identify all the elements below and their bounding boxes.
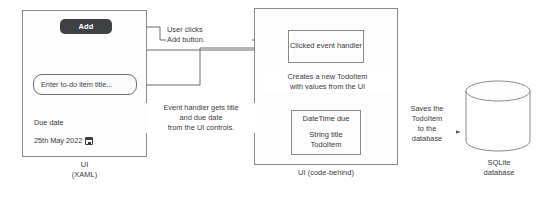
panel-caption-xaml: UI (XAML)	[22, 160, 147, 180]
due-date-label: Due date	[34, 118, 64, 127]
panel-caption-database: SQLite database	[456, 158, 542, 178]
sqlite-database-cylinder-icon	[462, 78, 534, 154]
todoitem-field-due: DateTime due	[303, 114, 350, 125]
diagram-canvas: Add Enter to-do item title... Due date 2…	[0, 0, 549, 200]
due-date-picker[interactable]: 25th May 2022	[34, 136, 93, 145]
add-button[interactable]: Add	[60, 19, 112, 34]
edge-label-creates-new-todoitem: Creates a new TodoItem with values from …	[264, 72, 391, 92]
todoitem-field-title: String title	[309, 130, 342, 141]
edge-label-user-clicks: User clicks Add button.	[166, 25, 252, 45]
edge-label-saves-to-database: Saves the TodoItem to the database	[398, 104, 456, 144]
todoitem-class-box: DateTime due String title TodoItem	[291, 110, 361, 155]
todo-title-input[interactable]: Enter to-do item title...	[33, 74, 137, 95]
todoitem-class-name: TodoItem	[311, 140, 342, 151]
edge-label-event-handler-gets: Event handler gets title and due date fr…	[146, 103, 256, 133]
calendar-icon[interactable]	[85, 137, 93, 145]
todo-title-input-value: Enter to-do item title...	[41, 80, 112, 89]
due-date-value: 25th May 2022	[34, 136, 82, 145]
clicked-event-handler-box: Clicked event handler	[288, 30, 364, 63]
panel-caption-code-behind: UI (code-behind)	[254, 168, 398, 178]
